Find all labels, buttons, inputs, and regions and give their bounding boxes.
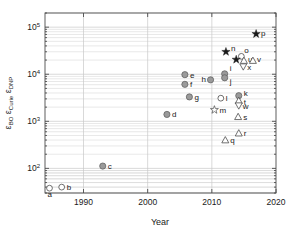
point-label-x: x	[247, 63, 251, 72]
x-tick-label-1990: 1990	[74, 197, 93, 207]
point-label-g: g	[194, 93, 198, 102]
point-label-q: q	[230, 136, 234, 145]
point-label-a: a	[47, 190, 52, 199]
filled-circle-marker	[100, 163, 106, 169]
svg-text:εBO εCurie εDNP: εBO εCurie εDNP	[3, 77, 14, 130]
x-tick-labels: 1990200020102020	[74, 197, 286, 207]
x-axis-title: Year	[151, 217, 169, 227]
open-circle-marker	[59, 184, 65, 190]
filled-circle-marker	[182, 72, 188, 78]
point-label-h: h	[202, 75, 206, 84]
open-circle-marker	[218, 95, 224, 101]
y-tick-labels: 102103104105	[27, 22, 40, 174]
scatter-plot-figure: 102103104105 1990200020102020 abcdefghij…	[0, 0, 292, 232]
filled-circle-marker	[222, 75, 228, 81]
point-label-r: r	[244, 129, 247, 138]
y-title-sub-curie: Curie	[8, 95, 14, 110]
filled-circle-marker	[182, 81, 188, 87]
point-label-v: v	[257, 55, 261, 64]
point-label-b: b	[67, 183, 72, 192]
point-label-n: n	[231, 44, 235, 53]
data-point-a: a	[47, 185, 53, 199]
x-tick-label-2000: 2000	[138, 197, 157, 207]
point-label-s: s	[243, 113, 247, 122]
point-label-c: c	[108, 162, 112, 171]
x-tick-label-2020: 2020	[267, 197, 286, 207]
x-tick-label-2010: 2010	[202, 197, 221, 207]
filled-circle-marker	[164, 111, 170, 117]
point-label-e: e	[190, 71, 195, 80]
point-label-w: w	[242, 102, 249, 111]
point-label-j: j	[229, 77, 232, 86]
filled-circle-marker	[207, 77, 213, 83]
point-label-m: m	[219, 106, 226, 115]
y-tick-label-4: 104	[27, 69, 40, 80]
y-axis-title: εBO εCurie εDNP	[3, 77, 14, 130]
point-label-l: l	[226, 94, 228, 103]
y-title-sub-dnp: DNP	[8, 77, 14, 90]
y-tick-label-5: 105	[27, 22, 40, 32]
y-tick-label-3: 103	[27, 116, 40, 127]
y-tick-label-2: 102	[27, 163, 40, 174]
y-title-sub-bo: BO	[8, 116, 14, 125]
point-label-i: i	[230, 64, 232, 73]
filled-circle-marker	[186, 94, 192, 100]
point-label-p: p	[261, 29, 266, 38]
point-label-d: d	[172, 110, 176, 119]
